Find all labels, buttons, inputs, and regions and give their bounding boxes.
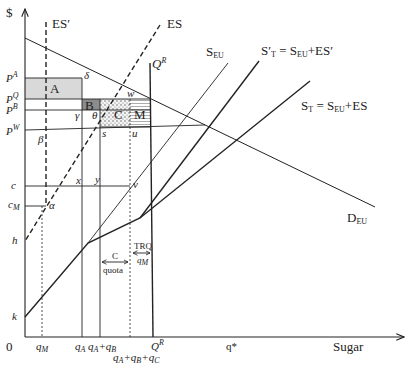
point-w: w — [127, 88, 134, 99]
point-beta: β — [38, 134, 43, 145]
p-a-label: PA — [6, 71, 18, 84]
es-curve — [25, 25, 160, 241]
quota-label: quota — [103, 266, 123, 275]
point-theta: θ — [92, 110, 97, 121]
q-star-label: q* — [226, 341, 237, 352]
s-eu-curve — [88, 63, 228, 243]
y-axis-label: $ — [6, 6, 13, 19]
h-label: h — [12, 235, 18, 246]
q-abc-label: qA+qB+qC — [113, 352, 160, 365]
trq-q-m-label: qM — [137, 256, 148, 267]
point-y: y — [95, 174, 100, 185]
s-eu-label: SEU — [206, 45, 224, 60]
c-label: c — [11, 180, 16, 191]
quota-c-label: C — [112, 252, 118, 261]
c-m-label: cM — [8, 199, 20, 212]
p-w-label: PW — [6, 124, 19, 137]
q-a-label: qA — [75, 341, 85, 354]
s-t-prime-curve — [140, 61, 259, 218]
q-r-top-label: QR — [152, 57, 166, 70]
area-m-label: M — [134, 108, 146, 121]
point-delta: δ — [84, 70, 89, 81]
k-label: k — [12, 311, 17, 322]
s-t-label: ST = SEU+ES — [301, 99, 367, 114]
q-r-line — [150, 63, 153, 337]
q-m-label: qM — [36, 341, 48, 354]
s-t-prime-label: S′T = SEU+ES′ — [261, 44, 333, 59]
point-u: u — [132, 128, 138, 139]
point-x: x — [76, 175, 81, 186]
point-v: v — [133, 179, 138, 190]
origin-label: 0 — [6, 340, 13, 353]
point-alpha: α — [49, 200, 55, 211]
point-s: s — [102, 128, 106, 139]
p-b-label: PB — [6, 103, 18, 116]
s-t-curve — [25, 81, 310, 317]
d-eu-label: DEU — [347, 211, 367, 226]
area-a-label: A — [50, 82, 59, 95]
q-ab-label: qA+qB — [88, 341, 116, 354]
q-r-label: QR — [151, 339, 164, 352]
es-label: ES — [167, 17, 182, 30]
area-c-label: C — [114, 108, 123, 121]
point-gamma: γ — [75, 110, 79, 121]
diagram-canvas — [0, 0, 410, 366]
x-axis-label: Sugar — [333, 340, 363, 353]
es-prime-label: ES′ — [52, 17, 70, 30]
trq-label: TRQ — [134, 242, 152, 251]
